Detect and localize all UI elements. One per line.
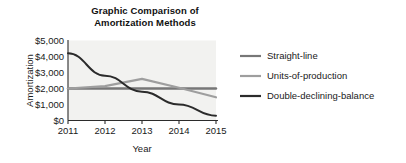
x-axis-title: Year: [132, 143, 151, 154]
x-axis-tick-labels: 20112012201320142015: [58, 125, 227, 136]
y-tick-label: $2,000: [35, 83, 64, 94]
chart-legend: Straight-lineUnits-of-productionDouble-d…: [240, 50, 374, 101]
x-tick-label: 2013: [131, 125, 152, 136]
y-tick-label: $3,000: [35, 67, 64, 78]
legend-label-units-of-production: Units-of-production: [267, 70, 347, 81]
x-tick-label: 2014: [168, 125, 189, 136]
chart-title-line-1: Graphic Comparison of: [91, 5, 199, 16]
y-axis-tick-labels: $0$1,000$2,000$3,000$4,000$5,000: [35, 35, 64, 126]
x-tick-label: 2011: [58, 125, 78, 136]
y-tick-label: $5,000: [35, 35, 64, 46]
chart-title: Graphic Comparison of Amortization Metho…: [55, 5, 235, 29]
y-axis-title: Amortization: [24, 54, 35, 107]
chart-figure: Graphic Comparison of Amortization Metho…: [0, 0, 406, 163]
legend-label-straight-line: Straight-line: [267, 50, 318, 61]
chart-title-line-2: Amortization Methods: [94, 17, 196, 28]
x-tick-label: 2012: [94, 125, 115, 136]
y-tick-label: $1,000: [35, 99, 64, 110]
y-tick-label: $4,000: [35, 51, 64, 62]
legend-label-double-declining-balance: Double-declining-balance: [267, 90, 374, 101]
x-tick-label: 2015: [205, 125, 226, 136]
